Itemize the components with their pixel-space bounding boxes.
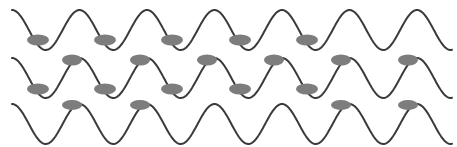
particle-row-1-item-1 <box>27 35 49 46</box>
particle-row-2-item-6 <box>398 55 418 66</box>
particle-row-2-item-4 <box>264 55 284 66</box>
particle-row-1-item-2 <box>94 35 116 46</box>
particle-row-3-item-4 <box>229 84 251 95</box>
particle-row-3-item-2 <box>94 84 116 95</box>
wave-diagram-figure <box>0 0 457 147</box>
particle-row-4-item-1 <box>62 100 82 110</box>
particle-row-1-item-5 <box>296 35 318 46</box>
particle-row-3-item-3 <box>161 84 183 95</box>
particle-row-4-item-3 <box>331 100 351 110</box>
particle-row-3-item-1 <box>27 84 49 95</box>
particle-row-1-item-4 <box>229 35 251 46</box>
particle-row-4-item-4 <box>398 100 418 110</box>
particle-row-1-item-3 <box>161 35 183 46</box>
particle-row-4-item-2 <box>130 100 150 110</box>
particle-row-3-item-5 <box>296 84 318 95</box>
particle-row-2-item-2 <box>130 55 150 66</box>
particle-row-2-item-1 <box>62 55 82 66</box>
particle-row-2-item-5 <box>331 55 351 66</box>
wave-diagram-canvas <box>0 0 457 147</box>
particle-row-2-item-3 <box>197 55 217 66</box>
